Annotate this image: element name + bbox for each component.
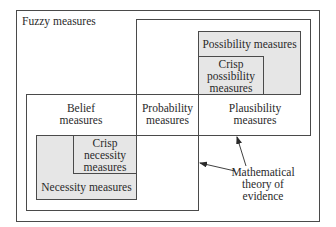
- arrow-to-belief-icon: [200, 163, 235, 171]
- annotation-arrows: [0, 0, 336, 227]
- arrow-to-plausibility-icon: [237, 137, 246, 166]
